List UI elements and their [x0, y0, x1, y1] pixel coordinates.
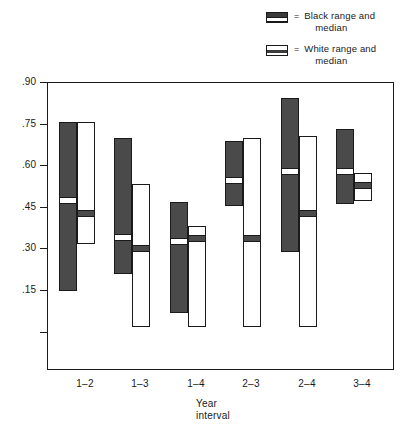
y-axis-tick-label: .15 [0, 285, 36, 295]
legend-item-white: = White range and median [266, 43, 416, 67]
median-marker [281, 168, 299, 175]
median-marker [114, 234, 132, 241]
x-axis-tick-label: 2–3 [221, 378, 281, 389]
white-range-bar [132, 184, 150, 327]
legend-item-black: = Black range and median [266, 10, 416, 34]
black-range-swatch-icon [266, 12, 288, 23]
legend-equals-sign: = [294, 44, 299, 55]
legend-label-white-line1: White range and [304, 43, 376, 54]
white-range-bar [77, 122, 95, 244]
black-range-bar [281, 98, 299, 252]
x-axis-title-line2: interval [196, 410, 230, 421]
median-marker [225, 177, 243, 184]
black-range-bar [114, 138, 132, 274]
median-marker [299, 210, 317, 217]
legend-label-black: Black range and median [304, 10, 375, 34]
x-axis-tick-label: 1–3 [110, 378, 170, 389]
legend-equals-sign: = [294, 11, 299, 22]
x-axis-tick-label: 3–4 [332, 378, 392, 389]
median-marker [354, 182, 372, 189]
x-axis-tick-label: 2–4 [277, 378, 337, 389]
median-marker [59, 197, 77, 204]
black-range-bar [225, 141, 243, 206]
median-marker [77, 210, 95, 217]
x-axis-tick-label: 1–4 [166, 378, 226, 389]
x-axis-title-line1: Year [196, 398, 217, 409]
legend-label-black-line1: Black range and [304, 10, 375, 21]
black-range-bar [59, 122, 77, 291]
median-marker [132, 245, 150, 252]
y-axis-tick-label: .30 [0, 243, 36, 253]
y-axis-tick-label: .75 [0, 119, 36, 129]
y-axis-tick-label: .90 [0, 77, 36, 87]
median-marker [170, 238, 188, 245]
chart-legend: = Black range and median = White range a… [266, 10, 416, 76]
white-range-bar [243, 138, 261, 327]
legend-label-white: White range and median [304, 43, 376, 67]
median-marker [243, 235, 261, 242]
median-marker [336, 168, 354, 175]
legend-label-black-line2: median [304, 22, 375, 34]
black-range-bar [336, 129, 354, 204]
plot-area [47, 82, 394, 370]
white-range-bar [354, 173, 372, 201]
y-axis-tick-label: .45 [0, 202, 36, 212]
median-marker [188, 235, 206, 242]
x-axis-title: Year interval [196, 398, 230, 422]
y-axis-tick-label: .60 [0, 160, 36, 170]
white-range-swatch-icon [266, 45, 288, 56]
black-range-bar [170, 202, 188, 313]
bars-container [48, 83, 393, 369]
white-range-bar [188, 226, 206, 327]
white-range-bar [299, 136, 317, 327]
x-axis-tick-label: 1–2 [55, 378, 115, 389]
legend-label-white-line2: median [304, 55, 376, 67]
